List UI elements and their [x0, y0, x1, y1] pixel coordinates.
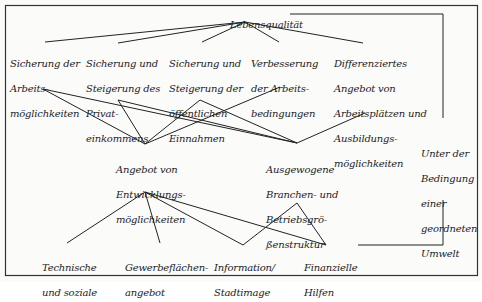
node-text: geordneten [421, 223, 477, 236]
node-verbesserung-arbeitsbedingungen: Verbesserung der Arbeits- bedingungen [251, 45, 318, 133]
node-text: bedingungen [251, 108, 318, 121]
node-technische-soziale: Technische und soziale [42, 249, 97, 302]
node-text: Steigerung des [86, 83, 160, 96]
node-text: Stadtimage [214, 287, 275, 300]
node-text: einer [421, 198, 477, 211]
node-text: Arbeitsplätzen und [334, 108, 427, 121]
node-text: Gewerbeflächen- [125, 262, 208, 275]
node-text: Angebot von [334, 83, 427, 96]
node-text: Sicherung und [169, 58, 243, 71]
node-text: angebot [125, 287, 208, 300]
node-text: Umwelt [421, 248, 477, 261]
node-text: Sicherung und [86, 58, 160, 71]
node-text: möglichkeiten [334, 158, 427, 171]
node-text: Entwicklungs- [116, 189, 186, 202]
node-differenziertes-angebot: Differenziertes Angebot von Arbeitsplätz… [334, 45, 427, 183]
node-sicherung-privateinkommen: Sicherung und Steigerung des Privat- ein… [86, 45, 160, 158]
node-sicherung-oeffentliche-einnahmen: Sicherung und Steigerung der öffentliche… [169, 45, 243, 158]
node-text: möglichkeiten [10, 108, 80, 121]
node-text: Betriebsgrö- [266, 214, 338, 227]
node-text: Sicherung der [10, 58, 80, 71]
node-sicherung-arbeitsmoeglichkeiten: Sicherung der Arbeits- möglichkeiten [10, 45, 80, 133]
node-lebensqualitaet: Lebensqualität [230, 6, 303, 44]
node-text: Ausbildungs- [334, 133, 427, 146]
node-text: Finanzielle [304, 262, 357, 275]
node-gewerbeflaechenangebot: Gewerbeflächen- angebot [125, 249, 208, 302]
node-text: Technische [42, 262, 97, 275]
node-text: Verbesserung [251, 58, 318, 71]
node-text: Branchen- und [266, 189, 338, 202]
node-text: Arbeits- [10, 83, 80, 96]
node-text: der Arbeits- [251, 83, 318, 96]
node-text: Privat- [86, 108, 160, 121]
node-text: einkommens [86, 133, 160, 146]
node-angebot-entwicklungsmoeglichkeiten: Angebot von Entwicklungs- möglichkeiten [116, 151, 186, 239]
node-umwelt-bedingung: Unter der Bedingung einer geordneten Umw… [421, 135, 477, 273]
node-ausgewogene-struktur: Ausgewogene Branchen- und Betriebsgrö- ß… [266, 151, 338, 264]
node-finanzielle-hilfen: Finanzielle Hilfen [304, 249, 357, 302]
node-text: Information/ [214, 262, 275, 275]
node-text: Unter der [421, 148, 477, 161]
node-text: Hilfen [304, 287, 357, 300]
node-text: Differenziertes [334, 58, 427, 71]
node-text: Ausgewogene [266, 164, 338, 177]
node-text: und soziale [42, 287, 97, 300]
node-text: öffentlichen [169, 108, 243, 121]
node-text: Einnahmen [169, 133, 243, 146]
node-text: Bedingung [421, 173, 477, 186]
node-text: möglichkeiten [116, 214, 186, 227]
node-information-stadtimage: Information/ Stadtimage [214, 249, 275, 302]
node-text: Angebot von [116, 164, 186, 177]
node-text: Steigerung der [169, 83, 243, 96]
node-text: Lebensqualität [230, 19, 303, 32]
